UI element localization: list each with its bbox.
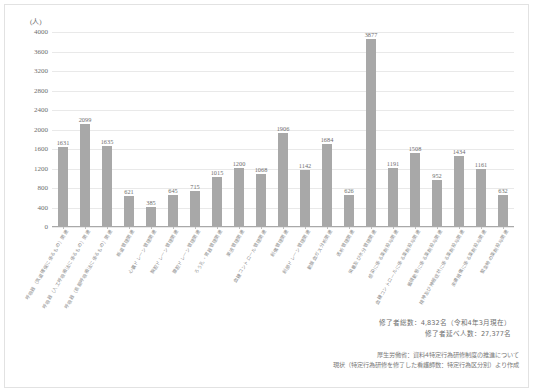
bar-value-label: 1200	[233, 160, 246, 167]
x-axis-line	[52, 226, 514, 227]
source-line-2: 現状（特定行為研修を修了した看護師数：特定行為区分別）より作成	[333, 360, 519, 370]
bar-value-label: 3877	[365, 31, 378, 38]
summary-cumulative-line: 修了者延べ人数：27,377名	[379, 329, 511, 340]
bar	[80, 124, 90, 226]
bar-slot: 1015	[206, 31, 228, 226]
bar-slot: 1161	[470, 31, 492, 226]
bar-slot: 1191	[382, 31, 404, 226]
y-axis-tick-label: 3200	[34, 67, 48, 75]
bar	[278, 133, 288, 226]
bar	[476, 169, 486, 226]
bar-value-label: 1684	[321, 136, 334, 143]
bar	[102, 146, 112, 226]
bar	[212, 177, 222, 226]
y-axis-tick-label: 2800	[34, 87, 48, 95]
bar	[300, 170, 310, 226]
x-axis-category-label: 創傷管理関連	[270, 229, 289, 257]
bar	[498, 195, 508, 226]
source-note: 厚生労働省：資料4特定行為研修制度の推進について 現状（特定行為研修を修了した看…	[333, 350, 519, 370]
bar-slot: 1508	[404, 31, 426, 226]
bar-value-label: 632	[498, 187, 507, 194]
source-line-1: 厚生労働省：資料4特定行為研修制度の推進について	[333, 350, 519, 360]
bar-slot: 1200	[228, 31, 250, 226]
bar-value-label: 645	[168, 187, 177, 194]
bar-value-label: 1142	[299, 162, 311, 169]
bar	[168, 195, 178, 226]
bar-value-label: 1631	[57, 139, 70, 146]
bar-value-label: 2099	[79, 116, 92, 123]
bar	[410, 153, 420, 227]
bar-value-label: 1068	[255, 166, 268, 173]
bar-slot: 3877	[360, 31, 382, 226]
bar	[124, 196, 134, 226]
bar-slot: 952	[426, 31, 448, 226]
x-axis-category-label: 精神及び神経症状に係る薬剤投与関連	[419, 229, 466, 305]
bar-slot: 632	[492, 31, 514, 226]
x-axis-category-label: 透析管理関連	[336, 229, 355, 257]
bar-series: 1631209916356213856457151015120010681906…	[52, 31, 514, 226]
bar-value-label: 952	[432, 172, 441, 179]
x-axis-category-label: 栃道管理関連	[116, 229, 135, 257]
y-axis-tick-label: 2400	[34, 106, 48, 114]
x-axis-category-label: 動脈血ガス分析関連	[307, 229, 334, 270]
bar-slot: 645	[162, 31, 184, 226]
bar	[454, 156, 464, 226]
bar-slot: 621	[118, 31, 140, 226]
bar-slot: 1068	[250, 31, 272, 226]
bar-value-label: 1015	[211, 169, 224, 176]
bar	[322, 144, 332, 226]
bar	[432, 180, 442, 226]
x-axis-labels: 呼吸器（気道確保に係るもの）関連呼吸器（人工呼吸療法に係るもの）関連呼吸器（長期…	[52, 229, 514, 319]
bar-slot: 2099	[74, 31, 96, 226]
summary-block: 修了者総数：4,832名（令和4年3月現在） 修了者延べ人数：27,377名	[379, 318, 511, 340]
bar-value-label: 626	[344, 187, 353, 194]
y-axis-tick-label: 3600	[34, 48, 48, 56]
y-axis-tick-label: 2000	[34, 126, 48, 134]
bar-value-label: 1191	[387, 160, 399, 167]
x-axis-category-label: 血糖コントロールに係る薬剤投与関連	[375, 229, 422, 305]
bar-value-label: 621	[124, 188, 133, 195]
bar	[388, 168, 398, 226]
y-axis-tick-label: 800	[38, 184, 49, 192]
bar-slot: 1142	[294, 31, 316, 226]
bar-value-label: 1434	[453, 148, 466, 155]
bar	[146, 207, 156, 226]
summary-total-line: 修了者総数：4,832名（令和4年3月現在）	[379, 318, 511, 329]
bar	[366, 39, 376, 226]
y-axis-tick-label: 400	[38, 204, 49, 212]
y-axis-tick-label: 0	[45, 223, 49, 231]
bar-value-label: 1161	[475, 161, 487, 168]
bar-value-label: 1635	[101, 138, 114, 145]
bar-value-label: 1906	[277, 125, 290, 132]
bar	[344, 195, 354, 226]
bar-value-label: 715	[190, 183, 199, 190]
bar-slot: 1635	[96, 31, 118, 226]
bar	[234, 168, 244, 227]
bar-slot: 626	[338, 31, 360, 226]
bar-slot: 385	[140, 31, 162, 226]
bar	[256, 174, 266, 226]
plot-area: 040080012001600200024002800320036004000 …	[52, 32, 514, 227]
bar	[58, 147, 68, 227]
x-axis-category-label: 栗液管理関連	[226, 229, 245, 257]
y-axis-unit-label: (人)	[30, 16, 42, 26]
bar-slot: 1631	[52, 31, 74, 226]
bar-value-label: 1508	[409, 145, 422, 152]
x-axis-category-label: 呼吸器（長期呼吸療法に係るもの）関連	[64, 229, 113, 309]
bar-slot: 1684	[316, 31, 338, 226]
y-axis-tick-label: 1200	[34, 165, 48, 173]
bar-value-label: 385	[146, 199, 155, 206]
y-axis-tick-label: 4000	[34, 28, 48, 36]
bar-slot: 1434	[448, 31, 470, 226]
bar-slot: 715	[184, 31, 206, 226]
bar-slot: 1906	[272, 31, 294, 226]
y-axis-tick-label: 1600	[34, 145, 48, 153]
bar	[190, 191, 200, 226]
